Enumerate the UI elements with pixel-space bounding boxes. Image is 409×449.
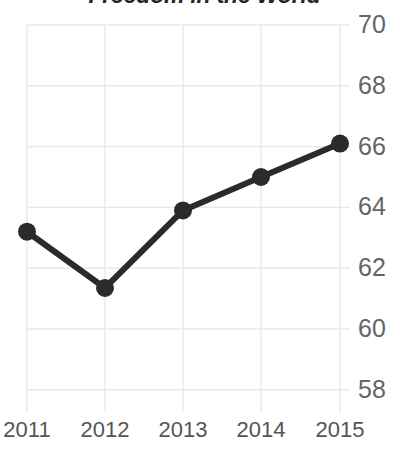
y-axis-tick-label: 68 xyxy=(358,73,406,98)
data-point-marker xyxy=(252,168,270,186)
y-axis-tick-label: 58 xyxy=(358,377,406,402)
line-chart: Freedom in the World 70686664626058 2011… xyxy=(0,0,409,449)
x-axis-tick-label: 2014 xyxy=(221,419,301,441)
x-axis-tick-label: 2015 xyxy=(300,419,380,441)
data-point-marker xyxy=(331,135,349,153)
y-axis-tick-label: 62 xyxy=(358,255,406,280)
y-axis-tick-label: 60 xyxy=(358,316,406,341)
data-point-marker xyxy=(96,279,114,297)
y-axis-tick-label: 66 xyxy=(358,134,406,159)
gridlines xyxy=(27,25,350,412)
x-axis-tick-label: 2013 xyxy=(143,419,223,441)
data-point-marker xyxy=(18,223,36,241)
y-axis-tick-label: 70 xyxy=(358,12,406,37)
data-point-marker xyxy=(174,201,192,219)
plot-area xyxy=(0,0,409,449)
x-axis-tick-label: 2012 xyxy=(65,419,145,441)
plot-svg xyxy=(0,0,409,449)
y-axis-tick-label: 64 xyxy=(358,194,406,219)
x-axis-tick-label: 2011 xyxy=(0,419,67,441)
